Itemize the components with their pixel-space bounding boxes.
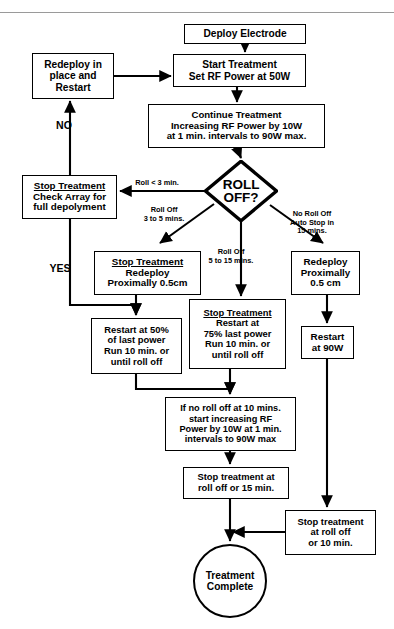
node-line: Continue Treatment: [191, 110, 281, 121]
node-line: Set RF Power at 50W: [189, 71, 290, 82]
node-treatment-complete[interactable]: Treatment Complete: [193, 544, 267, 618]
node-if-no-roll-off[interactable]: If no roll off at 10 mins. start increas…: [165, 397, 296, 451]
node-line: Redeploy in: [44, 59, 102, 70]
node-continue-treatment[interactable]: Continue Treatment Increasing RF Power b…: [148, 104, 325, 148]
node-line: until roll off: [212, 350, 264, 361]
node-line: 0.5 cm: [310, 278, 341, 289]
node-line: or 10 min.: [308, 538, 352, 549]
edge-label-line: Roll < 3 min.: [118, 179, 196, 188]
node-redeploy-proximally[interactable]: Redeploy Proximally 0.5 cm: [291, 251, 360, 295]
edge-continue-to-decision: [237, 148, 241, 158]
diamond-label: ROLL OFF?: [204, 178, 278, 205]
node-line: If no roll off at 10 mins.: [180, 403, 281, 413]
edge-label-line: YES: [38, 262, 82, 274]
node-line: Start Treatment: [202, 59, 277, 70]
node-line: Redeploy: [303, 257, 347, 268]
node-line: Complete: [207, 581, 253, 592]
edge-label-line: 5 to 15 mins.: [195, 257, 267, 266]
top-divider-rule: [0, 12, 394, 13]
edge-label-line: 15 mins.: [276, 227, 348, 236]
node-stop-check-array[interactable]: Stop Treatment Check Array for full depo…: [22, 175, 117, 219]
node-line: Run 10 min. or: [104, 346, 169, 357]
edge-label-no-roll-off-auto-stop: No Roll Off Auto Stop in 15 mins.: [276, 210, 348, 236]
node-line: Proximally 0.5cm: [107, 278, 187, 289]
edge-label-roll-off-3-to-5min: Roll Off 3 to 5 mins.: [131, 206, 197, 223]
node-restart-90w[interactable]: Restart at 90W: [301, 326, 354, 359]
edge-label-line: NO: [44, 119, 84, 131]
edge-label-line: 3 to 5 mins.: [131, 215, 197, 224]
node-line: place and: [50, 70, 97, 81]
node-restart-50-percent[interactable]: Restart at 50% of last power Run 10 min.…: [91, 318, 182, 374]
edge-label-roll-off-5-to-15min: Roll Off 5 to 15 mins.: [195, 248, 267, 265]
node-line: at 90W: [312, 343, 344, 354]
node-line: Deploy Electrode: [203, 28, 286, 39]
node-stop-treatment-roll-off-15[interactable]: Stop treatment at roll off or 15 min.: [183, 467, 289, 499]
node-stop-redeploy-proximally[interactable]: Stop Treatment Redeploy Proximally 0.5cm: [94, 251, 201, 295]
node-line: at 1 min. intervals to 90W max.: [167, 131, 307, 142]
node-line: start increasing RF: [189, 414, 272, 424]
node-line: Restart: [311, 332, 345, 343]
node-line: until roll off: [111, 357, 163, 368]
node-redeploy-in-place[interactable]: Redeploy in place and Restart: [32, 53, 114, 99]
node-stop-treatment-roll-off-10[interactable]: Stop treatment at roll off or 10 min.: [285, 510, 376, 555]
node-line: intervals to 90W max: [185, 434, 276, 444]
flowchart-canvas: Deploy Electrode Redeploy in place and R…: [0, 0, 394, 629]
node-line: Restart: [55, 82, 90, 93]
node-line: Treatment: [206, 570, 255, 581]
edge-label-no: NO: [44, 119, 84, 131]
edge-restart50-to-ifnorolloff: [136, 374, 230, 394]
node-line: full depolyment: [33, 202, 105, 213]
node-deploy-electrode[interactable]: Deploy Electrode: [184, 24, 306, 44]
node-roll-off-decision[interactable]: ROLL OFF?: [204, 160, 278, 222]
edge-label-roll-less-than-3min: Roll < 3 min.: [118, 179, 196, 188]
node-start-treatment[interactable]: Start Treatment Set RF Power at 50W: [173, 54, 306, 87]
node-line: roll off or 15 min.: [198, 483, 274, 494]
node-line-header: Stop Treatment: [112, 257, 183, 268]
edge-label-yes: YES: [38, 262, 82, 274]
node-line: Power by 10W at 1 min.: [179, 424, 281, 434]
node-line-header: Stop Treatment: [34, 181, 105, 192]
node-line: OFF?: [223, 190, 258, 205]
node-stop-restart-75-percent[interactable]: Stop Treatment Restart at 75% last power…: [189, 299, 286, 369]
